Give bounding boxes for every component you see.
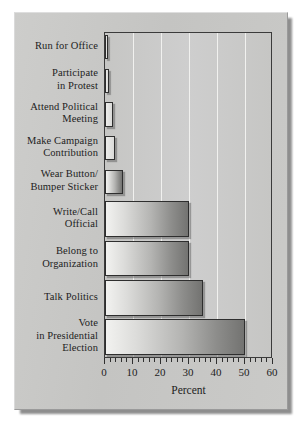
category-label-line: in Protest [10,80,98,93]
x-tick-minor [138,358,139,362]
category-label-line: Write/Call [10,206,98,219]
x-tick-minor [121,358,122,362]
category-label-line: Contribution [10,147,98,160]
bar [105,69,109,93]
gridline-40 [217,33,218,357]
category-label: Make CampaignContribution [10,135,98,160]
category-label-line: Participate [10,67,98,80]
x-tick-minor [143,358,144,362]
x-tick-minor [205,358,206,362]
category-label: Belong toOrganization [10,245,98,270]
category-label-line: Vote [10,317,98,330]
bar [105,35,108,59]
category-label-line: Make Campaign [10,135,98,148]
x-tick-minor [238,358,239,362]
x-tick-minor [222,358,223,362]
bar [105,280,203,316]
x-tick-minor [126,358,127,362]
x-tick-major [160,358,161,364]
bar [105,136,115,160]
bar [105,201,189,237]
x-tick-minor [171,358,172,362]
category-label-line: Attend Political [10,101,98,114]
x-tick-minor [149,358,150,362]
x-tick-major [188,358,189,364]
bar [105,241,189,277]
x-tick-minor [227,358,228,362]
category-label: Votein PresidentialElection [10,317,98,355]
x-tick-minor [255,358,256,362]
x-tick-minor [115,358,116,362]
x-tick-minor [266,358,267,362]
x-tick-major [244,358,245,364]
category-label-line: Official [10,218,98,231]
category-label: Talk Politics [10,291,98,304]
x-tick-minor [166,358,167,362]
x-tick-minor [182,358,183,362]
x-tick-label: 0 [89,366,119,378]
bar [105,170,123,194]
x-tick-minor [210,358,211,362]
x-tick-label: 20 [145,366,175,378]
category-label: Participatein Protest [10,67,98,92]
category-label-line: Talk Politics [10,291,98,304]
category-label-line: Run for Office [10,40,98,53]
x-tick-minor [199,358,200,362]
category-label-line: Bumper Sticker [10,181,98,194]
x-tick-minor [250,358,251,362]
bar [105,102,113,126]
x-tick-label: 10 [117,366,147,378]
x-tick-major [104,358,105,364]
gridline-50 [245,33,246,357]
plot-area [104,32,272,358]
category-label-line: Election [10,342,98,355]
bar [105,319,245,355]
category-label-line: Organization [10,258,98,271]
x-tick-minor [194,358,195,362]
x-axis-title: Percent [104,384,273,396]
x-tick-major [132,358,133,364]
category-label-line: Meeting [10,113,98,126]
x-tick-label: 40 [201,366,231,378]
chart-figure: Run for OfficeParticipatein ProtestAtten… [0,0,301,430]
x-tick-major [272,358,273,364]
x-tick-label: 50 [229,366,259,378]
x-tick-minor [261,358,262,362]
category-label-line: Wear Button/ [10,168,98,181]
category-label: Run for Office [10,40,98,53]
x-tick-label: 30 [173,366,203,378]
category-label-line: Belong to [10,245,98,258]
x-axis-ticks [104,358,273,364]
x-tick-minor [177,358,178,362]
x-tick-minor [110,358,111,362]
category-label-line: in Presidential [10,330,98,343]
x-tick-label: 60 [257,366,287,378]
x-tick-minor [233,358,234,362]
x-tick-major [216,358,217,364]
category-label: Attend PoliticalMeeting [10,101,98,126]
category-label: Write/CallOfficial [10,206,98,231]
x-tick-minor [154,358,155,362]
category-label: Wear Button/Bumper Sticker [10,168,98,193]
